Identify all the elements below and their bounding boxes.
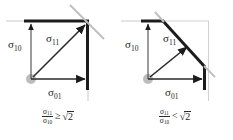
caption-right-relation: < (170, 111, 180, 121)
right-diagram-svg: σ10 σ11 σ01 (117, 0, 233, 110)
label-sigma01: σ01 (48, 86, 62, 101)
caption-left-denominator: σ10 (42, 117, 53, 125)
label-sigma10: σ10 (125, 38, 139, 53)
sigma11-arrow (150, 47, 187, 77)
caption-right-denominator: σ10 (159, 117, 170, 125)
caption-left: σ11 σ10 ≥√2 (0, 108, 116, 125)
label-sigma10: σ10 (8, 38, 22, 53)
label-sigma11: σ11 (46, 32, 59, 47)
caption-left-relation: ≥ (53, 111, 63, 121)
caption-right-radical: √2 (180, 111, 192, 122)
panel-left: σ10 σ11 σ01 σ11 σ10 ≥√2 (0, 0, 116, 140)
caption-left-radical: √2 (63, 111, 75, 122)
sigma11-arrow (33, 25, 85, 77)
label-sigma01: σ01 (165, 86, 179, 101)
caption-left-fraction: σ11 σ10 (42, 108, 53, 125)
caption-left-radicand: 2 (67, 111, 74, 122)
panel-right: σ10 σ11 σ01 σ11 σ10 <√2 (117, 0, 233, 140)
caption-right-radicand: 2 (184, 111, 191, 122)
caption-right-fraction: σ11 σ10 (159, 108, 170, 125)
stress-vector-figure: σ10 σ11 σ01 σ11 σ10 ≥√2 (0, 0, 233, 140)
left-diagram-svg: σ10 σ11 σ01 (0, 0, 116, 110)
caption-right: σ11 σ10 <√2 (117, 108, 233, 125)
